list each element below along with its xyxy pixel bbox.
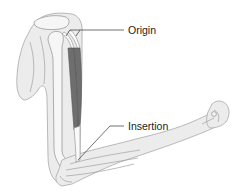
origin-label: Origin — [128, 24, 156, 36]
insertion-label: Insertion — [128, 120, 168, 132]
thumb — [212, 112, 217, 117]
acromion — [34, 16, 69, 30]
hand — [207, 101, 229, 128]
arm-muscle-diagram: Origin Insertion — [0, 0, 242, 196]
